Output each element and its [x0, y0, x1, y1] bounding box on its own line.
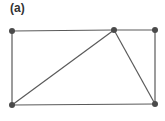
edge-top-middle-bottom-right: [114, 30, 155, 104]
node-bottom-right: [152, 101, 158, 107]
edge-bottom-left-top-middle: [12, 30, 114, 105]
node-top-right: [152, 27, 158, 33]
node-top-middle: [111, 27, 117, 33]
node-top-left: [9, 28, 15, 34]
edge-top-left-top-middle: [12, 30, 114, 31]
edge-bottom-left-bottom-right: [12, 104, 155, 105]
edges-group: [12, 30, 155, 105]
graph-diagram: [0, 0, 165, 121]
nodes-group: [9, 27, 158, 108]
node-bottom-left: [9, 102, 15, 108]
